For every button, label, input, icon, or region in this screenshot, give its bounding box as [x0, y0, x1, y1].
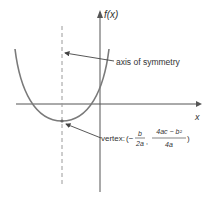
vertex-x-numerator: b: [138, 130, 142, 137]
vertex-comma: ,: [146, 138, 148, 145]
vertex-y-numerator: 4ac − b²: [156, 128, 182, 135]
vertex-close-paren: ): [187, 134, 190, 143]
vertex-open-paren: (−: [126, 134, 134, 143]
vertex-pointer-arrow: [66, 124, 101, 138]
x-axis-arrow-icon: [196, 101, 202, 107]
y-axis: [97, 10, 103, 192]
y-axis-label: f(x): [104, 9, 118, 20]
parabola-diagram: f(x) x axis of symmetry vertex: (− b 2a …: [0, 0, 212, 198]
x-axis-label: x: [194, 112, 200, 122]
axis-pointer-arrow: [65, 53, 114, 61]
y-axis-arrow-icon: [97, 10, 103, 18]
vertex-y-denominator: 4a: [165, 141, 173, 148]
x-axis: [16, 101, 202, 107]
axis-of-symmetry-label: axis of symmetry: [116, 57, 181, 67]
vertex-label: vertex: (− b 2a , 4ac − b² 4a ): [101, 128, 190, 148]
vertex-point: [60, 119, 63, 122]
vertex-prefix: vertex:: [101, 134, 125, 143]
vertex-x-denominator: 2a: [135, 140, 144, 147]
